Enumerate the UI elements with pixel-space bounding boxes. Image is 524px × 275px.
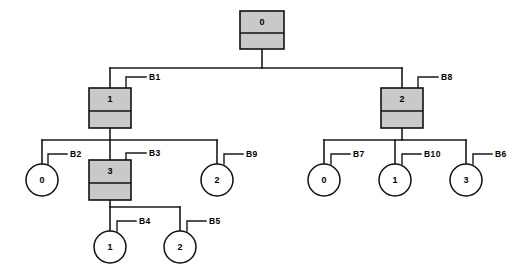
node-value-text: 2 — [399, 94, 404, 104]
node-value-text: 0 — [321, 175, 326, 185]
branch-leader-B8 — [418, 77, 438, 88]
node-n3[interactable]: 0 — [26, 164, 58, 196]
tree-diagram-container: 01203201312 B1B8B2B3B9B7B10B6B4B5 — [0, 0, 524, 275]
branch-label-B8: B8 — [441, 72, 453, 82]
node-n2[interactable]: 2 — [381, 88, 423, 128]
nodes-layer: 01203201312 — [26, 11, 482, 263]
node-value-text: 0 — [259, 17, 264, 27]
branch-label-B6: B6 — [495, 149, 507, 159]
node-value-text: 1 — [107, 94, 112, 104]
node-n1[interactable]: 1 — [89, 88, 131, 128]
node-value-text: 1 — [107, 242, 112, 252]
branch-leader-B1 — [126, 77, 146, 88]
node-n5[interactable]: 2 — [201, 164, 233, 196]
branch-leader-B2 — [48, 154, 67, 164]
branch-leader-B7 — [331, 154, 350, 164]
node-value-text: 3 — [107, 166, 112, 176]
branch-label-B4: B4 — [139, 216, 151, 226]
node-n4[interactable]: 3 — [89, 160, 131, 200]
node-value-text: 2 — [177, 242, 182, 252]
branch-leader-B9 — [224, 154, 243, 164]
branch-leader-B5 — [187, 221, 206, 231]
node-n8[interactable]: 3 — [450, 164, 482, 196]
node-value-text: 0 — [39, 175, 44, 185]
node-value-text: 1 — [392, 175, 397, 185]
branch-label-B9: B9 — [246, 149, 258, 159]
branch-leader-B6 — [473, 154, 492, 164]
branch-leader-B3 — [126, 153, 146, 160]
tree-diagram-canvas: 01203201312 B1B8B2B3B9B7B10B6B4B5 — [0, 0, 524, 275]
branch-label-B2: B2 — [70, 149, 82, 159]
branch-label-B10: B10 — [424, 149, 441, 159]
node-n6[interactable]: 0 — [308, 164, 340, 196]
node-n0[interactable]: 0 — [240, 11, 284, 49]
node-value-text: 3 — [463, 175, 468, 185]
node-n10[interactable]: 2 — [164, 231, 196, 263]
branch-label-B7: B7 — [353, 149, 365, 159]
branch-label-B1: B1 — [149, 72, 161, 82]
branch-leader-B4 — [117, 221, 136, 231]
branch-label-B5: B5 — [209, 216, 221, 226]
node-n7[interactable]: 1 — [379, 164, 411, 196]
branch-labels-layer: B1B8B2B3B9B7B10B6B4B5 — [70, 72, 507, 226]
edges-layer — [42, 49, 466, 231]
branch-leader-B10 — [402, 154, 421, 164]
branch-label-B3: B3 — [149, 148, 161, 158]
node-n9[interactable]: 1 — [94, 231, 126, 263]
node-value-text: 2 — [214, 175, 219, 185]
